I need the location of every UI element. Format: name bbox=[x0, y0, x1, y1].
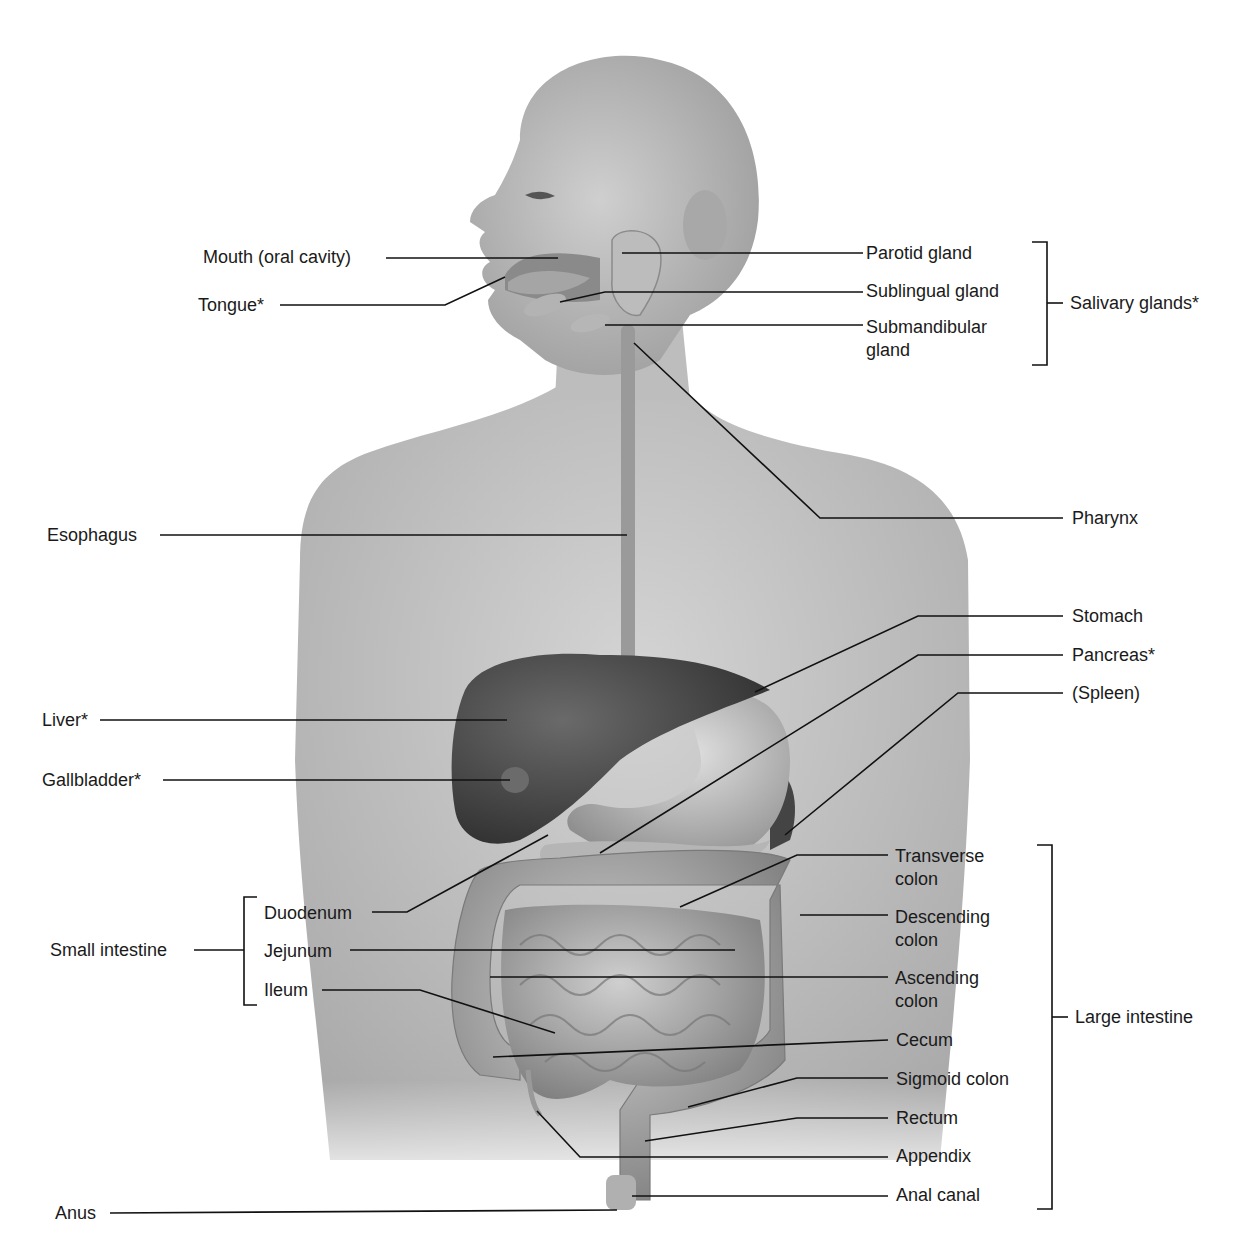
label-parotid-gland: Parotid gland bbox=[866, 242, 972, 265]
label-large-intestine: Large intestine bbox=[1075, 1006, 1193, 1029]
label-pharynx: Pharynx bbox=[1072, 507, 1138, 530]
small-intestine bbox=[501, 905, 765, 1099]
label-sigmoid-colon: Sigmoid colon bbox=[896, 1068, 1009, 1091]
label-anus: Anus bbox=[55, 1202, 96, 1225]
anal-canal bbox=[606, 1175, 636, 1210]
label-stomach: Stomach bbox=[1072, 605, 1143, 628]
label-gallbladder: Gallbladder* bbox=[42, 769, 141, 792]
label-esophagus: Esophagus bbox=[47, 524, 137, 547]
label-cecum: Cecum bbox=[896, 1029, 953, 1052]
label-sublingual-gland: Sublingual gland bbox=[866, 280, 999, 303]
label-spleen: (Spleen) bbox=[1072, 682, 1140, 705]
label-tongue: Tongue* bbox=[198, 294, 264, 317]
label-duodenum: Duodenum bbox=[264, 902, 352, 925]
label-liver: Liver* bbox=[42, 709, 88, 732]
digestive-system-figure bbox=[0, 0, 1250, 1260]
esophagus bbox=[621, 325, 635, 665]
label-salivary-glands: Salivary glands* bbox=[1070, 292, 1199, 315]
label-pancreas: Pancreas* bbox=[1072, 644, 1155, 667]
label-ileum: Ileum bbox=[264, 979, 308, 1002]
label-transverse-colon: Transverse colon bbox=[895, 845, 995, 891]
label-small-intestine: Small intestine bbox=[50, 939, 167, 962]
label-anal-canal: Anal canal bbox=[896, 1184, 980, 1207]
label-descending-colon: Descending colon bbox=[895, 906, 1015, 952]
label-rectum: Rectum bbox=[896, 1107, 958, 1130]
label-ascending-colon: Ascending colon bbox=[895, 967, 1005, 1013]
label-submandibular-gland: Submandibular gland bbox=[866, 316, 1016, 362]
label-mouth: Mouth (oral cavity) bbox=[203, 246, 351, 269]
label-jejunum: Jejunum bbox=[264, 940, 332, 963]
label-appendix: Appendix bbox=[896, 1145, 971, 1168]
